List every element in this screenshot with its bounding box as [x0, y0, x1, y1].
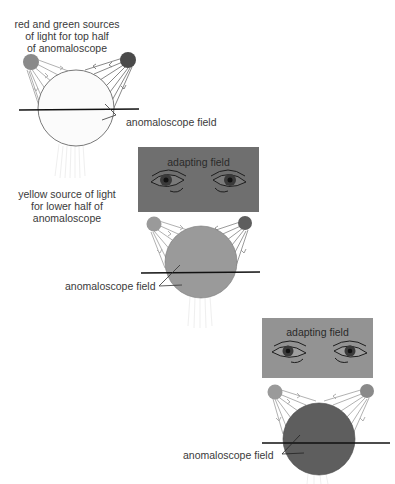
diagram-canvas	[0, 0, 395, 484]
panel-1-diagram	[19, 52, 139, 178]
anomaloscope-field-3	[283, 403, 355, 475]
adapting-field-1: adapting field	[138, 147, 259, 212]
caption-line: for lower half of	[10, 200, 124, 212]
green-source-icon	[120, 52, 136, 68]
anomaloscope-field-label-1: anomaloscope field	[126, 116, 216, 128]
caption-line: of anomaloscope	[14, 42, 120, 54]
anomaloscope-field-label-3: anomaloscope field	[183, 449, 273, 461]
anomaloscope-field-1	[38, 70, 114, 146]
anomaloscope-field-2	[165, 226, 237, 298]
divider-line-2	[141, 272, 260, 273]
yellow-light-rays	[55, 144, 85, 178]
adapting-field-2: adapting field	[262, 318, 373, 378]
anomaloscope-field-label-2: anomaloscope field	[65, 280, 155, 292]
yellow-light-rays-2	[188, 296, 212, 328]
green-source-icon-2	[238, 216, 252, 230]
panel-2-caption: yellow source of light for lower half of…	[10, 188, 124, 224]
yellow-light-rays-3	[307, 474, 328, 484]
caption-line: red and green sources	[14, 18, 120, 30]
divider-line-1	[19, 109, 139, 110]
caption-line: of light for top half	[14, 30, 120, 42]
caption-line: anomaloscope	[10, 212, 124, 224]
caption-line: yellow source of light	[10, 188, 124, 200]
adapting-field-label-2: adapting field	[262, 326, 373, 338]
red-source-icon-2	[147, 217, 162, 232]
panel-1-caption: red and green sources of light for top h…	[14, 18, 120, 54]
red-source-icon-3	[268, 385, 283, 400]
adapting-field-label-1: adapting field	[138, 156, 259, 168]
green-source-icon-3	[360, 384, 374, 398]
red-source-icon	[23, 54, 39, 70]
